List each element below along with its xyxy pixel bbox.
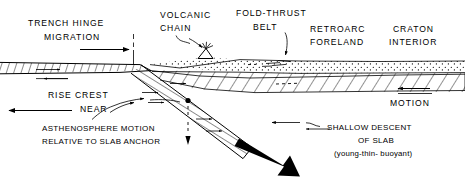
volcanic-chain-label-line1: VOLCANIC bbox=[160, 10, 211, 20]
craton-label-line2: INTERIOR bbox=[389, 37, 437, 47]
trench-hinge-label-line2: MIGRATION bbox=[44, 32, 100, 42]
retroarc-label-line1: RETROARC bbox=[310, 24, 365, 34]
shallow-descent-label-line1: SHALLOW DESCENT bbox=[327, 123, 412, 132]
fold-thrust-label-line1: FOLD-THRUST bbox=[236, 8, 307, 18]
near-label: NEAR bbox=[80, 104, 107, 114]
volcanic-chain-label-line2: CHAIN bbox=[160, 23, 191, 33]
shallow-descent-label-line2: OF SLAB bbox=[358, 136, 394, 145]
shallow-descent-label-line3: (young-thin- buoyant) bbox=[334, 149, 413, 158]
oceanic-lithosphere-hatched-band bbox=[0, 62, 151, 73]
fold-thrust-belt-pointer-icon bbox=[285, 33, 287, 56]
trench-hinge-label-line1: TRENCH HINGE bbox=[28, 18, 104, 28]
subduction-diagram: TRENCH HINGE MIGRATION VOLCANIC CHAIN FO… bbox=[0, 0, 465, 194]
volcano-icon bbox=[198, 42, 213, 59]
rise-crest-label: RISE CREST bbox=[48, 90, 109, 100]
volcanic-chain-pointer-icon bbox=[176, 36, 202, 48]
continental-lithosphere-hatched-layer bbox=[150, 70, 465, 93]
shallow-descent-pointer-icon bbox=[306, 123, 320, 127]
motion-label: MOTION bbox=[390, 98, 430, 108]
continental-crust-stippled-layer bbox=[150, 57, 465, 74]
fold-thrust-label-line2: BELT bbox=[253, 22, 277, 32]
sub-slab-arrows-icon bbox=[272, 123, 330, 130]
craton-label-line1: CRATON bbox=[393, 24, 434, 34]
asthenosphere-label-line2: RELATIVE TO SLAB ANCHOR bbox=[42, 137, 160, 146]
retroarc-label-line2: FORELAND bbox=[310, 37, 364, 47]
asthenosphere-label-line1: ASTHENOSPHERE MOTION bbox=[42, 124, 155, 133]
